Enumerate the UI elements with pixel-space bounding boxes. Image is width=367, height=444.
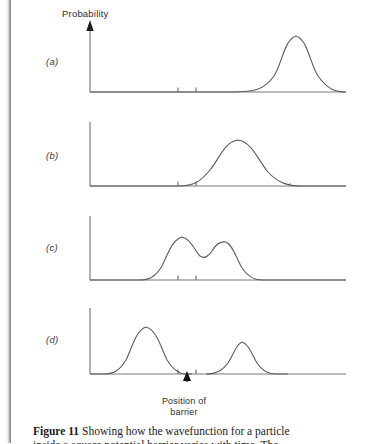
barrier-annotation-line2: barrier	[170, 407, 197, 417]
panel-d-label: (d)	[46, 334, 59, 345]
figure-caption-line2: inside a square potential barrier varies…	[33, 438, 358, 444]
panel-c: (c)	[30, 206, 350, 298]
panel-a-label: (a)	[46, 56, 59, 67]
barrier-annotation: Position of barrier	[132, 396, 236, 418]
panel-c-plot	[82, 206, 352, 288]
figure-caption-line1: Showing how the wavefunction for a parti…	[82, 425, 290, 437]
figure-caption: Figure 11 Showing how the wavefunction f…	[33, 424, 358, 444]
panel-d-plot	[82, 300, 352, 382]
barrier-arrow-head-icon	[183, 371, 191, 381]
panel-a-probability-curve	[90, 36, 346, 92]
panel-c-probability-curve	[90, 237, 346, 280]
panel-d: (d)	[30, 300, 350, 392]
panel-b-probability-curve	[90, 140, 346, 186]
panel-d-transmitted-packet-curve	[206, 342, 288, 374]
panel-b: (b)	[30, 112, 350, 204]
figure-number: Figure 11	[33, 425, 79, 437]
panel-b-plot	[82, 112, 352, 194]
panel-d-reflected-packet-curve	[90, 327, 192, 374]
panel-a: (a)	[30, 18, 350, 110]
panel-a-y-axis-arrowhead	[86, 20, 93, 31]
panel-b-label: (b)	[46, 150, 59, 161]
panel-c-label: (c)	[46, 242, 58, 253]
panel-a-plot	[82, 18, 352, 100]
barrier-annotation-line1: Position of	[162, 396, 206, 406]
